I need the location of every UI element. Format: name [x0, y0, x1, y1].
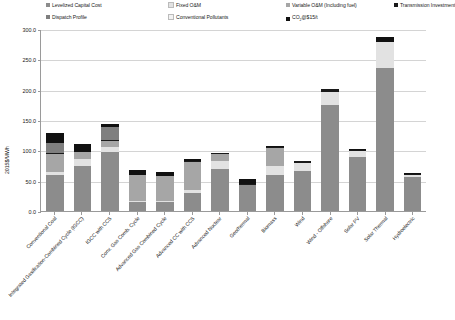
legend-swatch-icon — [286, 17, 290, 21]
legend-swatch-icon — [168, 2, 174, 8]
bar-column[interactable] — [41, 30, 69, 211]
legend-item-label: Variable O&M (Including fuel) — [292, 2, 357, 8]
stacked-bar[interactable] — [294, 161, 312, 211]
stacked-bar[interactable] — [46, 133, 64, 211]
bar-segment — [46, 143, 64, 154]
stacked-bar[interactable] — [156, 172, 174, 211]
stacked-bar[interactable] — [129, 170, 147, 211]
legend-item[interactable]: Transmission Investment — [394, 2, 455, 8]
x-axis-tickmark — [192, 212, 193, 215]
bar-column[interactable] — [316, 30, 344, 211]
y-axis-tick-label: 250.0 — [23, 57, 37, 63]
stacked-bar[interactable] — [266, 146, 284, 211]
stacked-bar[interactable] — [74, 144, 92, 211]
bar-column[interactable] — [371, 30, 399, 211]
legend-item[interactable]: Dispatch Profile — [46, 14, 87, 20]
bar-column[interactable] — [151, 30, 179, 211]
stacked-bar[interactable] — [239, 179, 257, 211]
x-axis-label: IGCC with CCS — [85, 216, 114, 246]
bar-column[interactable] — [261, 30, 289, 211]
x-axis-tickmark — [109, 212, 110, 215]
stacked-bar[interactable] — [211, 153, 229, 211]
stacked-bar[interactable] — [404, 173, 422, 211]
x-axis-tickmark — [54, 212, 55, 215]
x-axis-tickmark — [164, 212, 165, 215]
bar-column[interactable] — [179, 30, 207, 211]
x-axis-tickmark — [274, 212, 275, 215]
x-axis-label: Advanced Gas Combined Cycle — [115, 216, 169, 273]
bar-segment — [74, 166, 92, 212]
bar-column[interactable] — [399, 30, 427, 211]
legend-swatch-icon — [46, 15, 50, 19]
bar-segment — [184, 162, 202, 191]
bar-segment — [266, 148, 284, 166]
y-axis-tick-label: 50.0 — [26, 179, 37, 185]
bar-segment — [101, 127, 119, 140]
x-axis-tickmark — [412, 212, 413, 215]
bar-column[interactable] — [206, 30, 234, 211]
x-axis-tickmark — [385, 212, 386, 215]
bar-segment — [211, 169, 229, 211]
y-axis-tick-label: 200.0 — [23, 88, 37, 94]
x-axis-tickmark — [247, 212, 248, 215]
bar-column[interactable] — [124, 30, 152, 211]
bar-segment — [239, 185, 257, 211]
bar-column[interactable] — [289, 30, 317, 211]
plot-wrapper: 2015$/MWh 0.050.0100.0150.0200.0250.0300… — [0, 26, 430, 320]
bar-segment — [46, 133, 64, 142]
legend-item[interactable]: Conventional Pollutants — [168, 14, 228, 20]
bar-segment — [404, 177, 422, 211]
bar-segment — [46, 154, 64, 172]
chart-legend: Levelized Capital CostFixed O&MVariable … — [46, 2, 428, 26]
stacked-bar[interactable] — [349, 149, 367, 211]
legend-swatch-icon — [286, 3, 290, 7]
bar-segment — [156, 176, 174, 200]
bar-segment — [184, 193, 202, 211]
plot-area — [40, 30, 426, 212]
legend-item[interactable]: CO2@$15/t — [286, 14, 318, 23]
bar-segment — [46, 175, 64, 211]
x-axis-tickmark — [137, 212, 138, 215]
y-axis-tick-label: 300.0 — [23, 27, 37, 33]
legend-item-label: Conventional Pollutants — [176, 14, 228, 20]
bar-column[interactable] — [96, 30, 124, 211]
stacked-bar[interactable] — [376, 37, 394, 211]
legend-item-label: Dispatch Profile — [52, 14, 87, 20]
bar-segment — [376, 42, 394, 68]
bar-column[interactable] — [234, 30, 262, 211]
y-axis-tick-label: 0.0 — [29, 209, 37, 215]
legend-swatch-icon — [46, 3, 50, 7]
x-axis-label: Geothermal — [229, 216, 252, 240]
bar-segment — [211, 161, 229, 168]
bar-segment — [211, 154, 229, 161]
legend-row-1: Levelized Capital CostFixed O&MVariable … — [46, 2, 428, 13]
x-axis-label: Hydroelectric — [392, 216, 417, 242]
x-axis-tickmark — [330, 212, 331, 215]
y-axis-tick-label: 150.0 — [23, 118, 37, 124]
bar-segment — [349, 157, 367, 211]
x-axis-label: Biomass — [261, 216, 279, 234]
bar-segment — [74, 144, 92, 151]
y-axis-ticks: 0.050.0100.0150.0200.0250.0300.0 — [10, 26, 38, 216]
bar-segment — [321, 105, 339, 211]
stacked-bar[interactable] — [321, 89, 339, 211]
x-axis-tickmark — [219, 212, 220, 215]
legend-item[interactable]: Levelized Capital Cost — [46, 2, 102, 8]
x-axis-label: Solar Thermal — [363, 216, 389, 243]
x-axis-label: Wind - Offshore — [305, 216, 334, 246]
bar-segment — [266, 166, 284, 174]
legend-item-label: Levelized Capital Cost — [52, 2, 102, 8]
legend-item[interactable]: Variable O&M (Including fuel) — [286, 2, 357, 8]
legend-item[interactable]: Fixed O&M — [168, 2, 201, 8]
bar-segment — [156, 202, 174, 211]
bar-segment — [294, 171, 312, 211]
bar-column[interactable] — [69, 30, 97, 211]
stacked-bar[interactable] — [101, 124, 119, 211]
bar-segment — [129, 175, 147, 200]
x-axis-label: Advanced Nuclear — [191, 216, 224, 251]
legend-row-2: Dispatch ProfileConventional PollutantsC… — [46, 14, 428, 25]
stacked-bar[interactable] — [184, 159, 202, 211]
bar-column[interactable] — [344, 30, 372, 211]
bar-segment — [376, 68, 394, 211]
